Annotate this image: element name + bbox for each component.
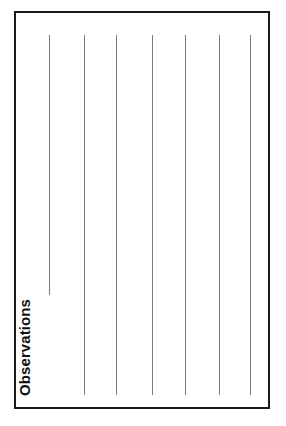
ruled-line [49, 35, 50, 295]
observations-section-box[interactable]: Observations [14, 11, 270, 409]
worksheet-page: Observations [0, 0, 286, 426]
ruled-line [84, 35, 85, 395]
ruled-line [185, 35, 186, 395]
ruled-line [250, 35, 251, 395]
observations-section-label: Observations [17, 299, 32, 396]
ruled-line [219, 35, 220, 395]
ruled-line [116, 35, 117, 395]
ruled-line [152, 35, 153, 395]
ruled-lines-group [16, 13, 268, 407]
